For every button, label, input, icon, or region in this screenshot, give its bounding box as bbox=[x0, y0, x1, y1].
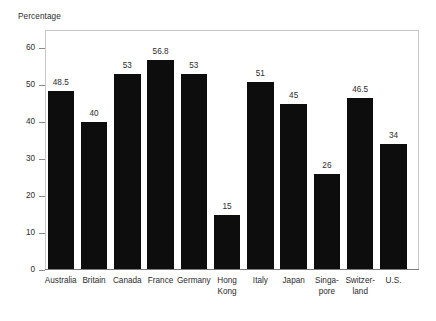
x-axis-category-label: HongKong bbox=[210, 276, 245, 297]
bar-value-label: 15 bbox=[223, 203, 232, 211]
bar-group: 26 bbox=[314, 30, 341, 270]
y-axis-title: Percentage bbox=[18, 12, 61, 21]
x-axis-category-label-line: Britain bbox=[77, 276, 112, 287]
bar-group: 56.8 bbox=[147, 30, 174, 270]
bar bbox=[48, 91, 75, 270]
bar-value-label: 51 bbox=[256, 70, 265, 78]
x-axis-category-label-line: U.S. bbox=[376, 276, 411, 287]
bar-group: 34 bbox=[380, 30, 407, 270]
x-axis-category-label-line: Germany bbox=[177, 276, 212, 287]
x-axis-category-label-line: France bbox=[143, 276, 178, 287]
y-axis-tick-label: 30 bbox=[26, 155, 35, 163]
x-axis-category-label: U.S. bbox=[376, 276, 411, 287]
bar-value-label: 26 bbox=[322, 162, 331, 170]
y-axis-tick-label: 60 bbox=[26, 44, 35, 52]
x-axis-category-label-line: Australia bbox=[44, 276, 79, 287]
x-axis-category-label: Germany bbox=[177, 276, 212, 287]
bar-group: 45 bbox=[280, 30, 307, 270]
x-axis-category-label: France bbox=[143, 276, 178, 287]
bar bbox=[247, 82, 274, 270]
bars-layer: 48.5405356.8531551452646.534 bbox=[45, 30, 419, 270]
y-axis-tick-label: 10 bbox=[26, 229, 35, 237]
y-axis-tick-label: 40 bbox=[26, 118, 35, 126]
bar-group: 15 bbox=[214, 30, 241, 270]
x-axis-category-label: Canada bbox=[110, 276, 145, 287]
bar-value-label: 53 bbox=[123, 62, 132, 70]
x-axis-category-label-line: Canada bbox=[110, 276, 145, 287]
bar bbox=[314, 174, 341, 270]
bar bbox=[280, 104, 307, 270]
x-axis-category-label-line: Italy bbox=[243, 276, 278, 287]
y-axis-tick-label: 50 bbox=[26, 81, 35, 89]
x-axis-category-label-line: Switzer- bbox=[343, 276, 378, 287]
x-axis-category-label-line: pore bbox=[310, 287, 345, 298]
bar bbox=[214, 215, 241, 270]
x-axis-category-label: Singa-pore bbox=[310, 276, 345, 297]
bar-value-label: 53 bbox=[189, 62, 198, 70]
bar-group: 53 bbox=[181, 30, 208, 270]
bar-group: 53 bbox=[114, 30, 141, 270]
x-axis-category-label-line: Japan bbox=[276, 276, 311, 287]
bar bbox=[81, 122, 108, 270]
bar-group: 40 bbox=[81, 30, 108, 270]
bar-value-label: 34 bbox=[389, 132, 398, 140]
x-axis-category-label: Italy bbox=[243, 276, 278, 287]
bar-value-label: 46.5 bbox=[352, 86, 368, 94]
bar bbox=[380, 144, 407, 270]
x-axis-category-label: Britain bbox=[77, 276, 112, 287]
x-axis-category-label-line: Hong bbox=[210, 276, 245, 287]
x-axis-category-label-line: Singa- bbox=[310, 276, 345, 287]
y-axis-tick-label: 20 bbox=[26, 192, 35, 200]
y-axis-tick bbox=[39, 270, 45, 271]
bar-value-label: 45 bbox=[289, 92, 298, 100]
bar bbox=[147, 60, 174, 270]
bar-group: 46.5 bbox=[347, 30, 374, 270]
bar-value-label: 40 bbox=[89, 110, 98, 118]
bar-value-label: 48.5 bbox=[53, 79, 69, 87]
x-axis-category-label: Australia bbox=[44, 276, 79, 287]
x-axis-category-label-line: land bbox=[343, 287, 378, 298]
x-axis-baseline bbox=[45, 269, 419, 270]
bar-group: 51 bbox=[247, 30, 274, 270]
bar bbox=[114, 74, 141, 270]
bar-chart: Percentage 0102030405060 48.5405356.8531… bbox=[0, 0, 436, 321]
x-axis-category-label-line: Kong bbox=[210, 287, 245, 298]
bar bbox=[347, 98, 374, 270]
bar-group: 48.5 bbox=[48, 30, 75, 270]
x-axis-category-label: Switzer-land bbox=[343, 276, 378, 297]
y-axis-tick-label: 0 bbox=[30, 266, 35, 274]
x-axis-labels: AustraliaBritainCanadaFranceGermanyHongK… bbox=[45, 276, 419, 316]
bar bbox=[181, 74, 208, 270]
x-axis-category-label: Japan bbox=[276, 276, 311, 287]
bar-value-label: 56.8 bbox=[153, 48, 169, 56]
